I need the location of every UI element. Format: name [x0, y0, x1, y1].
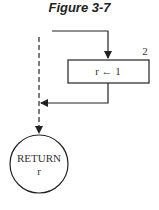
step-number: 2 [142, 45, 148, 57]
exit-arrow [41, 83, 108, 103]
return-keyword: RETURN [17, 152, 61, 164]
flowchart: r ← 1 2 RETURN r [0, 0, 159, 210]
entry-arrow [52, 31, 108, 58]
assignment-label: r ← 1 [95, 65, 121, 77]
return-value: r [37, 165, 41, 177]
return-node [10, 135, 68, 193]
